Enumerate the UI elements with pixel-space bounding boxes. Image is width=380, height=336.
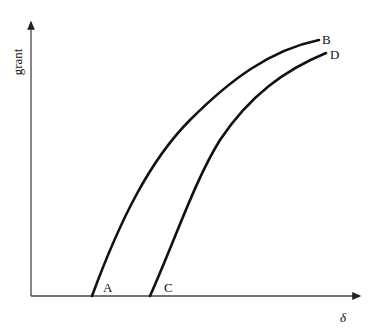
diagram: grant δ A B C D — [0, 0, 380, 336]
label-c: C — [164, 280, 173, 295]
curve-cd — [150, 53, 326, 296]
label-d: D — [330, 47, 339, 62]
label-a: A — [103, 280, 113, 295]
y-axis-label: grant — [10, 48, 25, 75]
label-b: B — [322, 32, 331, 47]
x-axis-label: δ — [340, 310, 347, 325]
